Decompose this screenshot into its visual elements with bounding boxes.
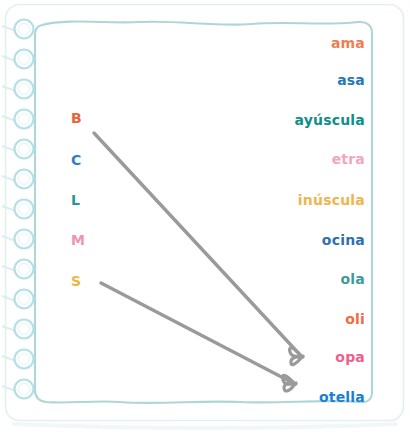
right-item-opa[interactable]: opa: [335, 350, 365, 364]
right-item-etra[interactable]: etra: [332, 152, 365, 166]
right-item-ola[interactable]: ola: [341, 272, 365, 286]
right-item-otella[interactable]: otella: [319, 390, 365, 404]
exercise-content: B C L M S ama asa ayúscula etra inúscula…: [0, 0, 410, 439]
right-item-ayuscula[interactable]: ayúscula: [294, 113, 365, 127]
left-item-m[interactable]: M: [71, 233, 85, 247]
right-item-inuscula[interactable]: inúscula: [298, 193, 365, 207]
right-item-ocina[interactable]: ocina: [322, 233, 365, 247]
left-item-l[interactable]: L: [71, 193, 80, 207]
left-item-b[interactable]: B: [71, 111, 82, 125]
worksheet-canvas: B C L M S ama asa ayúscula etra inúscula…: [0, 0, 410, 439]
left-item-c[interactable]: C: [71, 153, 81, 167]
right-item-oli[interactable]: oli: [345, 312, 365, 326]
right-item-ama[interactable]: ama: [331, 36, 365, 50]
right-item-asa[interactable]: asa: [337, 73, 365, 87]
left-item-s[interactable]: S: [71, 274, 81, 288]
